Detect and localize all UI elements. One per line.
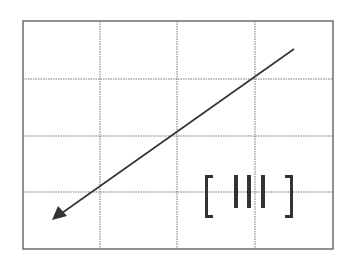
bar-1 — [234, 175, 238, 208]
grid-diagram — [0, 0, 351, 264]
bar-2 — [247, 175, 251, 208]
diagonal-arrow-icon — [52, 49, 294, 220]
bracket-bars-symbol-icon — [205, 175, 293, 218]
bar-3 — [261, 175, 265, 208]
